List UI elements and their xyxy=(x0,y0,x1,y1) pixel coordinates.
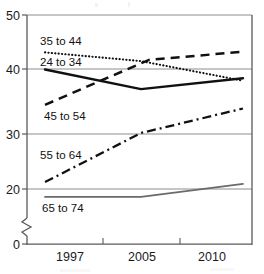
series-label-24-to-34: 24 to 34 xyxy=(40,56,82,68)
series-label-35-to-44: 35 to 44 xyxy=(40,35,82,47)
x-tick-label-2010: 2010 xyxy=(198,250,226,264)
x-tick-label-2005: 2005 xyxy=(128,250,156,264)
y-tick-label-30: 30 xyxy=(6,128,20,142)
series-label-65-to-74: 65 to 74 xyxy=(42,202,84,214)
y-tick-marks xyxy=(22,15,27,244)
series-label-55-to-64: 55 to 64 xyxy=(40,149,82,161)
scan-artifact xyxy=(210,268,234,271)
chart-container: 50 40 30 20 0 1997 2005 2010 35 to 44 24… xyxy=(0,0,264,274)
scan-artifact xyxy=(128,2,130,7)
series-label-45-to-54: 45 to 54 xyxy=(44,110,86,122)
y-tick-label-0: 0 xyxy=(13,238,20,252)
y-tick-label-20: 20 xyxy=(6,183,20,197)
scan-artifact xyxy=(60,269,90,272)
y-tick-label-50: 50 xyxy=(6,9,20,23)
line-chart: 50 40 30 20 0 1997 2005 2010 35 to 44 24… xyxy=(0,0,264,274)
scan-artifact xyxy=(95,3,98,7)
x-tick-label-1997: 1997 xyxy=(56,250,84,264)
y-tick-label-40: 40 xyxy=(6,63,20,77)
